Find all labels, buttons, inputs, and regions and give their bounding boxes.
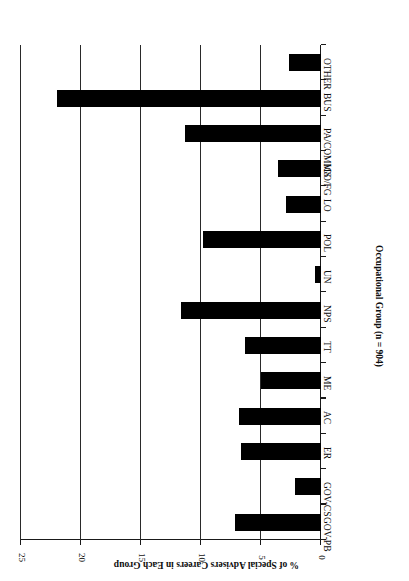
bar — [181, 302, 321, 319]
bar — [278, 160, 321, 177]
bar — [245, 337, 321, 354]
axis-tick — [200, 540, 201, 545]
category-axis-line — [21, 539, 321, 540]
bar — [241, 443, 321, 460]
category-label: ME — [322, 376, 332, 390]
bar — [235, 514, 321, 531]
tick-label: 20 — [77, 549, 86, 567]
category-label: GOV-PB — [322, 517, 332, 552]
category-label: NPS — [322, 305, 332, 322]
plot-area: 0510152025 GOV-PBGOV-CSERACMETTNPSUNPOLL… — [21, 45, 321, 540]
gridline — [200, 45, 201, 540]
bar — [295, 478, 321, 495]
category-tick — [321, 362, 326, 363]
category-label: POL — [322, 234, 332, 252]
axis-tick — [260, 540, 261, 545]
value-axis-title: % of Special Advisers Careers in Each Gr… — [114, 560, 299, 570]
category-label: AC — [322, 411, 332, 424]
category-label: TT — [322, 341, 332, 353]
axis-tick — [140, 540, 141, 545]
value-axis-zero-line — [320, 45, 321, 540]
axis-tick — [80, 540, 81, 545]
bar — [261, 372, 321, 389]
gridline — [80, 45, 81, 540]
category-label: BUS — [322, 93, 332, 111]
category-label: UN — [322, 270, 332, 284]
category-tick — [321, 256, 326, 257]
category-tick — [321, 221, 326, 222]
category-label: OTHER — [322, 58, 332, 90]
category-label: ER — [322, 447, 332, 459]
tick-label: 25 — [17, 549, 26, 567]
category-tick — [321, 115, 326, 116]
bar — [289, 54, 321, 71]
bar-chart-figure: 0510152025 GOV-PBGOV-CSERACMETTNPSUNPOLL… — [0, 0, 409, 581]
category-label: PA/COMMS — [322, 128, 332, 177]
bar — [239, 408, 321, 425]
category-label: LO — [322, 199, 332, 212]
bar — [57, 90, 321, 107]
category-tick — [321, 291, 326, 292]
bar — [203, 231, 321, 248]
category-tick — [321, 433, 326, 434]
category-tick — [321, 468, 326, 469]
bar — [315, 266, 321, 283]
gridline — [20, 45, 21, 540]
category-axis-title: Occupational Group (n = 904) — [374, 236, 384, 376]
bar — [286, 196, 321, 213]
bar — [185, 125, 321, 142]
category-tick — [321, 327, 326, 328]
axis-tick — [20, 540, 21, 545]
category-tick — [321, 44, 326, 45]
gridline — [140, 45, 141, 540]
gridline — [260, 45, 261, 540]
category-tick — [321, 397, 326, 398]
category-label: GOV-CS — [322, 482, 332, 517]
